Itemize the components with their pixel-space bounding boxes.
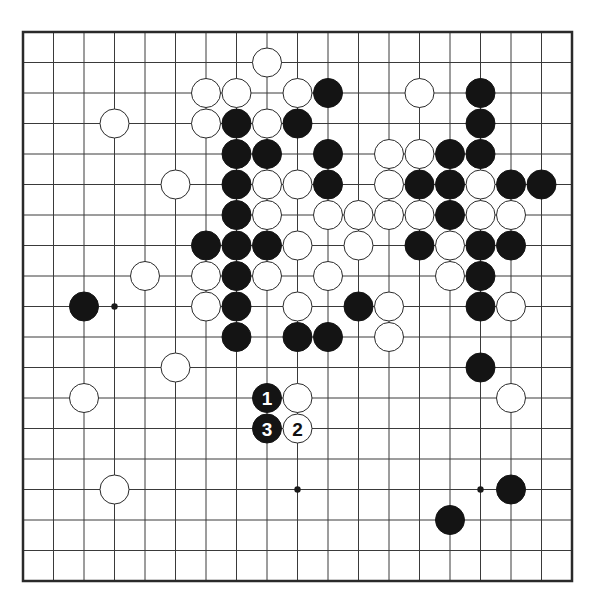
go-board: 123 (0, 0, 591, 609)
black-stone (466, 262, 495, 291)
white-stone (70, 384, 99, 413)
black-stone (405, 170, 434, 199)
white-stone (222, 79, 251, 108)
white-stone (283, 384, 312, 413)
white-stone (253, 262, 282, 291)
white-stone (436, 262, 465, 291)
black-stone (314, 323, 343, 352)
black-stone (466, 79, 495, 108)
black-stone (222, 201, 251, 230)
white-stone (283, 292, 312, 321)
black-stone (497, 170, 526, 199)
star-point (111, 303, 117, 309)
move-number-label: 2 (292, 419, 303, 440)
star-point (477, 486, 483, 492)
black-stone (314, 79, 343, 108)
black-stone (466, 140, 495, 169)
white-stone (100, 109, 129, 138)
black-stone (527, 170, 556, 199)
black-stone (222, 109, 251, 138)
black-stone (222, 140, 251, 169)
black-stone (466, 353, 495, 382)
black-stone (314, 140, 343, 169)
black-stone (222, 323, 251, 352)
black-stone (466, 292, 495, 321)
black-stone (253, 140, 282, 169)
white-stone (161, 353, 190, 382)
black-stone (436, 506, 465, 535)
black-stone (283, 323, 312, 352)
black-stone (314, 170, 343, 199)
black-stone (222, 170, 251, 199)
black-stone (70, 292, 99, 321)
white-stone (405, 140, 434, 169)
numbered-move-2: 2 (283, 414, 312, 443)
stones-layer (70, 48, 557, 535)
white-stone (497, 201, 526, 230)
white-stone (344, 201, 373, 230)
white-stone (375, 292, 404, 321)
black-stone (436, 201, 465, 230)
black-stone (222, 292, 251, 321)
black-stone (466, 109, 495, 138)
black-stone (222, 262, 251, 291)
move-number-label: 1 (262, 388, 273, 409)
white-stone (131, 262, 160, 291)
white-stone (192, 109, 221, 138)
black-stone (222, 231, 251, 260)
white-stone (375, 140, 404, 169)
white-stone (192, 262, 221, 291)
numbered-move-3: 3 (253, 414, 282, 443)
black-stone (497, 231, 526, 260)
white-stone (497, 384, 526, 413)
white-stone (375, 323, 404, 352)
white-stone (283, 170, 312, 199)
white-stone (253, 170, 282, 199)
black-stone (344, 292, 373, 321)
white-stone (314, 201, 343, 230)
white-stone (436, 231, 465, 260)
white-stone (375, 170, 404, 199)
white-stone (253, 109, 282, 138)
white-stone (192, 292, 221, 321)
black-stone (405, 231, 434, 260)
white-stone (497, 292, 526, 321)
white-stone (161, 170, 190, 199)
white-stone (375, 201, 404, 230)
white-stone (466, 201, 495, 230)
black-stone (466, 231, 495, 260)
white-stone (253, 201, 282, 230)
black-stone (436, 170, 465, 199)
numbered-move-1: 1 (253, 384, 282, 413)
white-stone (405, 201, 434, 230)
white-stone (283, 79, 312, 108)
black-stone (497, 475, 526, 504)
black-stone (283, 109, 312, 138)
star-point (294, 486, 300, 492)
white-stone (100, 475, 129, 504)
white-stone (344, 231, 373, 260)
black-stone (192, 231, 221, 260)
white-stone (466, 170, 495, 199)
move-number-label: 3 (262, 419, 273, 440)
white-stone (192, 79, 221, 108)
white-stone (253, 48, 282, 77)
white-stone (405, 79, 434, 108)
black-stone (436, 140, 465, 169)
go-board-diagram: 123 (0, 0, 591, 609)
white-stone (314, 262, 343, 291)
black-stone (253, 231, 282, 260)
white-stone (283, 231, 312, 260)
